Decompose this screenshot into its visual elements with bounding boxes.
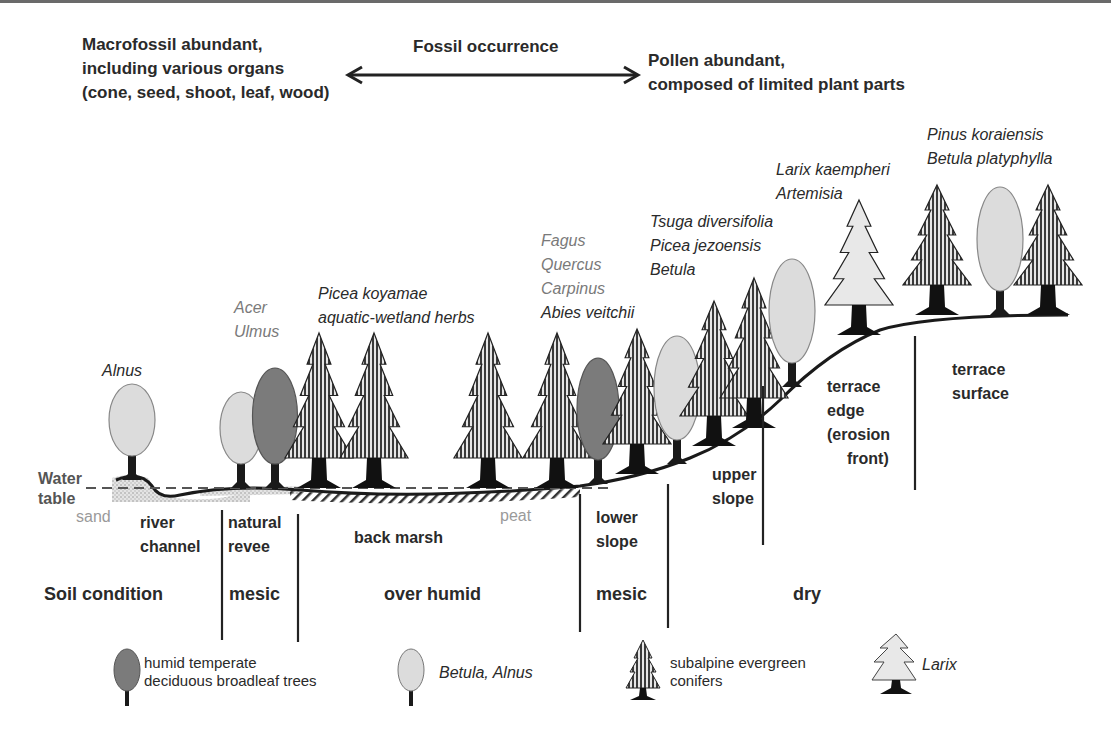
conifer-tree-icon [1014,185,1082,315]
landform-label: terraceedge(erosionfront) [827,378,890,467]
header-left-line-3: (cone, seed, shoot, leaf, wood) [82,83,329,102]
ecological-transect-diagram: Macrofossil abundant, including various … [0,0,1111,750]
legend-item-deciduous: humid temperate deciduous broadleaf tree… [114,649,317,706]
taxa-label: FagusQuercusCarpinus [541,232,605,297]
legend-item-betula: Betula, Alnus [398,649,533,706]
betula-tree-icon [977,187,1023,315]
taxa-label: Picea koyamaeaquatic-wetland herbs [318,285,475,326]
conifer-tree-icon [340,333,408,488]
water-table-label: Water table [38,470,86,507]
landform-label: lowerslope [596,509,638,550]
landform-label: naturalrevee [228,514,281,555]
taxa-label: Pinus koraiensisBetula platyphylla [927,126,1053,167]
double-arrow-icon [348,67,638,83]
soil-zone-label: dry [793,584,821,604]
soil-condition-title: Soil condition [44,584,163,604]
legend-betula-label: Betula, Alnus [439,664,533,681]
taxa-label: Alnus [101,362,142,379]
legend: humid temperate deciduous broadleaf tree… [114,634,958,706]
svg-text:subalpine evergreen co: subalpine evergreen conifers [670,654,810,689]
taxa-labels: AlnusAcerUlmusPicea koyamaeaquatic-wetla… [101,126,1053,379]
deciduous-tree-icon [577,358,619,484]
betula-tree-icon [109,384,155,480]
pollen-description: Pollen abundant, composed of limited pla… [648,51,905,94]
legend-deciduous-line-1: humid temperate [144,654,257,671]
sand-label: sand [76,508,111,525]
landform-label: back marsh [354,529,443,546]
legend-larix-label: Larix [922,656,958,673]
legend-deciduous-line-2: deciduous broadleaf trees [144,672,317,689]
landform-label: terracesurface [952,361,1009,402]
larix-tree-icon [872,634,916,694]
deciduous-tree-icon [114,649,140,706]
soil-zone-label: over humid [384,584,481,604]
soil-zone-label: mesic [596,584,647,604]
deciduous-tree-icon [253,368,298,488]
taxa-label: Larix kaempheriArtemisia [775,161,890,202]
fossil-occurrence-title: Fossil occurrence [413,37,559,56]
header-right-line-1: Pollen abundant, [648,51,785,70]
legend-conifer-line-1: subalpine evergreen [670,654,806,671]
betula-tree-icon [398,649,424,706]
landform-label: riverchannel [140,514,200,555]
legend-conifer-line-2: conifers [670,672,723,689]
larix-tree-icon [825,200,893,335]
peat-label: peat [500,507,532,524]
taxa-label: Abies veitchii [540,304,635,321]
legend-item-conifer: subalpine evergreen conifers [626,640,810,700]
header-left-line-2: including various organs [82,59,284,78]
taxa-label: Tsuga diversifoliaPicea jezoensisBetula [650,213,773,278]
conifer-tree-icon [903,185,971,315]
header-right-line-2: composed of limited plant parts [648,75,905,94]
header: Macrofossil abundant, including various … [82,35,905,102]
header-left-line-1: Macrofossil abundant, [82,35,262,54]
macrofossil-description: Macrofossil abundant, including various … [82,35,329,102]
legend-item-larix: Larix [872,634,958,694]
taxa-label: AcerUlmus [233,299,279,340]
soil-condition-row: Soil condition mesicover humidmesicdry [44,584,821,604]
landform-label: upperslope [712,466,756,507]
conifer-tree-icon [454,333,522,488]
soil-zone-label: mesic [229,584,280,604]
svg-text:humid temperate decidu: humid temperate deciduous broadleaf tree… [144,654,317,689]
conifer-tree-icon [626,640,660,700]
